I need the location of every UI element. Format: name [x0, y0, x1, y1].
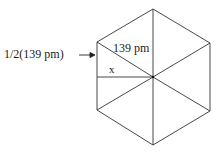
- apothem-label: x: [109, 63, 115, 75]
- side-label: 139 pm: [113, 41, 150, 55]
- half-side-label: 1/2(139 pm): [4, 47, 64, 61]
- hexagon-diagram: 139 pm x 1/2(139 pm): [0, 0, 216, 154]
- arrow-icon: [79, 53, 95, 58]
- center-point: [152, 76, 154, 78]
